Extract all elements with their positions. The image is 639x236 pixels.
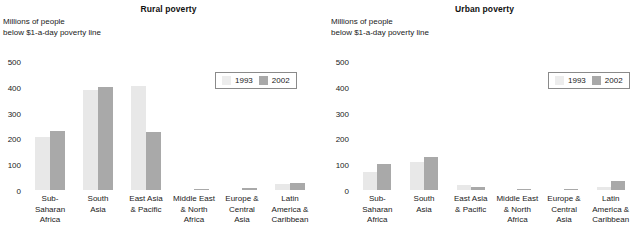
chart-panel-rural: Rural poverty Millions of people below $… bbox=[0, 0, 319, 236]
legend-label-1993: 1993 bbox=[568, 76, 586, 85]
y-tick-500: 500 bbox=[336, 58, 354, 67]
legend-swatch-2002-icon bbox=[259, 76, 268, 85]
chart-page: Rural poverty Millions of people below $… bbox=[0, 0, 639, 236]
legend-swatch-1993-icon bbox=[555, 76, 564, 85]
bar-2002 bbox=[50, 131, 65, 191]
bar-group bbox=[354, 62, 401, 191]
x-label-south-asia: South Asia bbox=[74, 194, 122, 226]
legend-swatch-2002-icon bbox=[592, 76, 601, 85]
y-tick-0: 0 bbox=[345, 187, 354, 196]
bar-1993 bbox=[83, 90, 98, 191]
bar-group bbox=[74, 62, 122, 191]
legend-label-2002: 2002 bbox=[605, 76, 623, 85]
legend-item-2002: 2002 bbox=[259, 76, 290, 85]
legend-swatch-1993-icon bbox=[222, 76, 231, 85]
bar-2002 bbox=[377, 164, 391, 191]
x-axis-labels-rural: Sub- Saharan Africa South Asia East Asia… bbox=[26, 194, 314, 226]
x-label-sub-saharan-africa: Sub- Saharan Africa bbox=[26, 194, 74, 226]
legend-item-1993: 1993 bbox=[222, 76, 253, 85]
x-label-east-asia-pacific: East Asia & Pacific bbox=[447, 194, 494, 226]
x-label-latin-america-caribbean: Latin America & Caribbean bbox=[266, 194, 314, 226]
x-label-south-asia: South Asia bbox=[401, 194, 448, 226]
bar-1993 bbox=[363, 172, 377, 191]
legend-label-2002: 2002 bbox=[272, 76, 290, 85]
x-label-middle-east-north-africa: Middle East & North Africa bbox=[494, 194, 541, 226]
y-tick-300: 300 bbox=[336, 109, 354, 118]
x-label-europe-central-asia: Europe & Central Asia bbox=[218, 194, 266, 226]
y-tick-200: 200 bbox=[8, 135, 26, 144]
legend-item-1993: 1993 bbox=[555, 76, 586, 85]
legend-label-1993: 1993 bbox=[235, 76, 253, 85]
y-tick-200: 200 bbox=[336, 135, 354, 144]
bar-2002 bbox=[98, 87, 113, 191]
chart-title-urban: Urban poverty bbox=[320, 4, 639, 14]
bar-2002 bbox=[424, 157, 438, 191]
y-tick-100: 100 bbox=[8, 161, 26, 170]
bar-group bbox=[494, 62, 541, 191]
y-tick-400: 400 bbox=[336, 83, 354, 92]
bar-group bbox=[26, 62, 74, 191]
x-axis-labels-urban: Sub- Saharan Africa South Asia East Asia… bbox=[354, 194, 634, 226]
bar-group bbox=[170, 62, 218, 191]
y-tick-0: 0 bbox=[17, 187, 26, 196]
y-tick-300: 300 bbox=[8, 109, 26, 118]
y-axis-caption-urban: Millions of people below $1-a-day povert… bbox=[331, 17, 429, 38]
bar-group bbox=[122, 62, 170, 191]
legend-urban: 1993 2002 bbox=[548, 72, 630, 89]
x-label-europe-central-asia: Europe & Central Asia bbox=[541, 194, 588, 226]
x-label-east-asia-pacific: East Asia & Pacific bbox=[122, 194, 170, 226]
bar-group bbox=[401, 62, 448, 191]
x-label-latin-america-caribbean: Latin America & Caribbean bbox=[587, 194, 634, 226]
chart-panel-urban: Urban poverty Millions of people below $… bbox=[320, 0, 639, 236]
x-axis-baseline bbox=[354, 190, 634, 191]
legend-rural: 1993 2002 bbox=[215, 72, 297, 89]
y-tick-400: 400 bbox=[8, 83, 26, 92]
bar-2002 bbox=[146, 132, 161, 191]
legend-item-2002: 2002 bbox=[592, 76, 623, 85]
chart-title-rural: Rural poverty bbox=[0, 4, 319, 14]
y-tick-100: 100 bbox=[336, 161, 354, 170]
x-label-middle-east-north-africa: Middle East & North Africa bbox=[170, 194, 218, 226]
bar-1993 bbox=[131, 86, 146, 191]
bar-group bbox=[447, 62, 494, 191]
x-label-sub-saharan-africa: Sub- Saharan Africa bbox=[354, 194, 401, 226]
y-tick-500: 500 bbox=[8, 58, 26, 67]
y-axis-caption-rural: Millions of people below $1-a-day povert… bbox=[3, 17, 101, 38]
bar-1993 bbox=[410, 162, 424, 191]
x-axis-baseline bbox=[26, 190, 314, 191]
bar-1993 bbox=[35, 137, 50, 191]
